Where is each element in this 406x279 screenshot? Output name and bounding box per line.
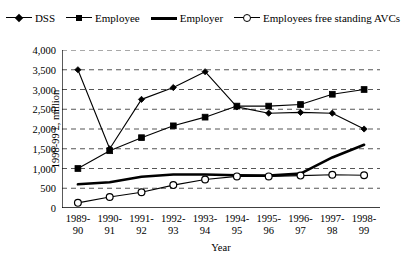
x-tick-label: 1996-97 [288, 213, 313, 236]
x-tick-label: 1998-99 [352, 213, 377, 236]
y-tick-label: 2,500 [32, 104, 56, 115]
data-point [138, 96, 144, 102]
x-tick-label: 1992-93 [161, 213, 186, 236]
series-line-employees-free-standing-avcs [78, 175, 364, 203]
legend-label: Employer [180, 12, 223, 24]
x-tick-label: 1989-90 [66, 213, 91, 236]
data-point [139, 135, 145, 141]
data-point [234, 103, 240, 109]
y-tick-label: 3,000 [32, 84, 56, 95]
y-tick-label: 500 [40, 183, 56, 194]
data-point [170, 123, 176, 129]
legend-item-employer: Employer [151, 12, 223, 24]
plot-area: 1998-99 £, million Year 05001,0001,5002,… [62, 50, 380, 208]
x-tick-label: 1994-95 [225, 213, 250, 236]
legend-item-employee: Employee [66, 12, 140, 24]
square-marker-icon [66, 12, 92, 24]
data-point [75, 166, 81, 172]
data-point [265, 173, 272, 180]
data-point [75, 199, 82, 206]
data-point [361, 126, 367, 132]
data-point [202, 176, 209, 183]
y-tick-label: 1,500 [32, 143, 56, 154]
data-point [297, 109, 303, 115]
data-point [234, 173, 241, 180]
legend-label: DSS [35, 12, 55, 24]
data-point [138, 189, 145, 196]
open-circle-marker-icon [234, 12, 260, 24]
data-point [298, 102, 304, 108]
y-tick-label: 4,000 [32, 45, 56, 56]
data-point [329, 171, 336, 178]
data-point [361, 172, 368, 179]
x-tick-label: 1995-96 [256, 213, 281, 236]
x-tick-label: 1997-98 [320, 213, 345, 236]
data-point [170, 182, 177, 189]
legend-label: Employee [95, 12, 140, 24]
data-point [107, 148, 113, 154]
diamond-marker-icon [6, 12, 32, 24]
data-point [329, 110, 335, 116]
legend-label: Employees free standing AVCs [263, 12, 400, 24]
y-tick-label: 2,000 [32, 124, 56, 135]
y-tick-label: 3,500 [32, 64, 56, 75]
data-point [202, 114, 208, 120]
chart-legend: DSS Employee Employer Employees free sta… [0, 6, 406, 30]
data-point [75, 67, 81, 73]
y-tick-label: 1,000 [32, 163, 56, 174]
data-point [297, 172, 304, 179]
x-tick-label: 1990-91 [97, 213, 122, 236]
data-point [106, 194, 113, 201]
x-tick-label: 1993-94 [193, 213, 218, 236]
data-point [361, 87, 367, 93]
legend-item-avcs: Employees free standing AVCs [234, 12, 400, 24]
x-axis-title: Year [62, 242, 380, 253]
y-tick-label: 0 [51, 203, 56, 214]
legend-item-dss: DSS [6, 12, 55, 24]
line-chart: DSS Employee Employer Employees free sta… [0, 0, 406, 279]
data-point [266, 103, 272, 109]
x-tick-label: 1991-92 [129, 213, 154, 236]
data-point [329, 91, 335, 97]
data-point [266, 110, 272, 116]
plot-svg [62, 50, 380, 208]
thick-line-icon [151, 12, 177, 24]
